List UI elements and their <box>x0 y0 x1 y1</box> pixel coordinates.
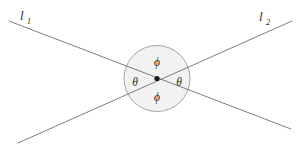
line-1 <box>9 21 291 129</box>
angle-theta-left: θ <box>132 76 138 88</box>
angle-phi-top: ϕ <box>154 56 160 69</box>
geometry-figure: l 1 l 2 ϕ θ θ ϕ <box>0 0 305 149</box>
line-2 <box>18 21 292 143</box>
diagram-canvas: l 1 l 2 ϕ θ θ ϕ <box>0 0 305 149</box>
line-1-subscript: 1 <box>27 17 31 26</box>
intersection-dot <box>154 76 159 81</box>
line-1-label: l <box>20 8 24 23</box>
line-2-subscript: 2 <box>266 18 270 27</box>
angle-phi-bottom: ϕ <box>154 91 160 104</box>
angle-theta-right: θ <box>176 76 182 88</box>
line-2-label: l <box>259 9 263 24</box>
